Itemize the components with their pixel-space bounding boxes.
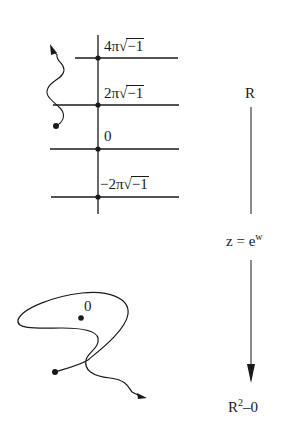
space-R2-minus-0: R2–0 bbox=[228, 398, 258, 415]
coef-4pi: 4π bbox=[104, 38, 119, 54]
label-0: 0 bbox=[104, 129, 112, 144]
map-formula: z = ew bbox=[226, 232, 263, 249]
map-arrowhead bbox=[247, 364, 255, 383]
arrowhead-bottom-path bbox=[137, 393, 147, 399]
label-neg2pi: −2π√−1 bbox=[100, 176, 149, 193]
arrowhead-top-path bbox=[50, 44, 57, 55]
formula-z: z bbox=[226, 233, 233, 249]
radicand-neg2pi: −1 bbox=[131, 176, 149, 193]
formula-eq: = bbox=[236, 233, 244, 249]
space-R: R bbox=[245, 86, 255, 101]
loop-path bbox=[18, 292, 140, 396]
coef-2pi: 2π bbox=[104, 85, 119, 101]
radicand-4pi: −1 bbox=[126, 38, 144, 55]
label-4pi: 4π√−1 bbox=[104, 38, 144, 55]
point-neg2pi bbox=[95, 194, 100, 199]
point-2pi bbox=[95, 102, 100, 107]
path-start-dot-bottom bbox=[52, 369, 58, 375]
label-2pi: 2π√−1 bbox=[104, 85, 144, 102]
diagram-canvas bbox=[0, 0, 297, 447]
point-0 bbox=[95, 146, 100, 151]
origin-dot bbox=[78, 315, 84, 321]
space-base: R bbox=[228, 399, 238, 415]
point-4pi bbox=[95, 55, 100, 60]
origin-label: 0 bbox=[84, 299, 92, 314]
path-start-dot-top bbox=[53, 123, 59, 129]
formula-exponent: w bbox=[255, 231, 262, 242]
radicand-2pi: −1 bbox=[126, 85, 144, 102]
space-minus-origin: –0 bbox=[243, 399, 258, 415]
lifted-path bbox=[47, 50, 64, 126]
coef-neg2pi: −2π bbox=[100, 176, 124, 192]
